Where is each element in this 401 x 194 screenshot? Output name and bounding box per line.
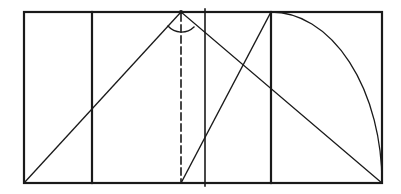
golden-ratio-diagram — [0, 0, 401, 194]
golden-arc — [271, 12, 382, 183]
outer-rectangle — [24, 12, 382, 183]
left-diagonal — [24, 12, 181, 183]
right-diagonal — [181, 12, 382, 183]
apex-point — [179, 10, 183, 14]
inner-diagonal — [181, 12, 271, 183]
